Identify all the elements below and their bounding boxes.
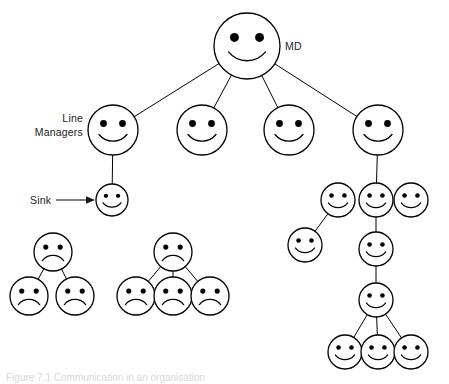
right-eye-lm2 [208,120,215,127]
edge-r-a1-to-r-b1 [315,214,328,232]
edge-r-c1-to-r-d3 [385,314,401,338]
face-node-sadB-c1[interactable] [117,277,155,315]
edge-sadA-top-to-sadA-c1 [38,269,44,280]
face-outline-sadA-c1 [10,277,48,315]
left-eye-sink [104,194,108,198]
left-eye-r-b2 [367,242,372,247]
figure-root: MD Line Managers Sink Figure 7.1 Communi… [0,0,449,384]
right-eye-sadA-c2 [80,288,85,293]
right-eye-r-a2 [380,193,385,198]
right-eye-sadA-top [58,244,63,249]
face-node-lm4[interactable] [353,105,403,155]
right-eye-lm4 [384,120,391,127]
edge-sadB-top-to-sadB-c1 [148,267,161,282]
right-eye-r-a1 [342,193,347,198]
edge-sadA-top-to-sadA-c2 [62,269,67,279]
face-node-r-d2[interactable] [361,335,395,369]
face-outline-lm2 [177,105,227,155]
left-eye-md [230,33,239,42]
edge-r-c1-to-r-d2 [377,317,378,335]
left-eye-sadB-c1 [126,288,131,293]
right-eye-r-d1 [349,345,354,350]
right-eye-sadA-c1 [34,288,39,293]
face-node-sadA-c1[interactable] [10,277,48,315]
face-node-r-b1[interactable] [288,228,322,262]
face-outline-sadB-c3 [191,277,229,315]
left-eye-r-d2 [369,345,374,350]
right-eye-r-d2 [382,345,387,350]
face-outline-r-d2 [361,335,395,369]
face-node-sadA-top[interactable] [34,233,72,271]
left-eye-r-b1 [296,238,301,243]
left-eye-lm1 [100,120,107,127]
edge-md-to-lm2 [214,75,232,108]
face-node-lm2[interactable] [177,105,227,155]
face-outline-sadA-top [34,233,72,271]
right-eye-sadB-top [178,244,183,249]
left-eye-r-a3 [402,193,407,198]
face-node-r-a1[interactable] [321,183,355,217]
face-outline-r-a3 [394,183,428,217]
face-node-r-c1[interactable] [359,283,393,317]
organisation-chart-diagram: MD Line Managers Sink [0,0,449,384]
nodes-layer [10,13,428,369]
face-outline-sadB-c1 [117,277,155,315]
face-outline-r-d3 [394,335,428,369]
face-node-r-d1[interactable] [328,335,362,369]
right-eye-sadB-c1 [141,288,146,293]
face-node-sadB-c3[interactable] [191,277,229,315]
left-eye-r-c1 [367,293,372,298]
md-label: MD [285,40,302,52]
face-outline-sadB-top [154,233,192,271]
right-eye-r-a3 [415,193,420,198]
right-eye-r-b2 [380,242,385,247]
face-node-lm3[interactable] [264,105,314,155]
left-eye-sadB-c2 [163,288,168,293]
face-outline-r-c1 [359,283,393,317]
edge-lm4-to-r-a2 [376,155,377,183]
face-outline-r-b1 [288,228,322,262]
face-outline-r-b2 [359,232,393,266]
right-eye-sadB-c2 [178,288,183,293]
face-outline-r-a2 [359,183,393,217]
right-eye-md [255,33,264,42]
left-eye-sadB-top [163,244,168,249]
left-eye-r-d3 [402,345,407,350]
right-eye-r-b1 [309,238,314,243]
edge-sadB-top-to-sadB-c3 [185,267,198,282]
face-node-sadB-top[interactable] [154,233,192,271]
right-eye-sink [116,194,120,198]
sink-arrow-annotation [56,196,95,204]
face-node-sadB-c2[interactable] [154,277,192,315]
face-outline-md [214,13,280,79]
left-eye-r-a1 [329,193,334,198]
left-eye-sadB-c3 [200,288,205,293]
face-node-r-b2[interactable] [359,232,393,266]
figure-caption: Figure 7.1 Communication in an organisat… [6,372,236,384]
face-node-lm1[interactable] [88,105,138,155]
right-eye-sadB-c3 [215,288,220,293]
face-node-md[interactable] [214,13,280,79]
face-node-sadA-c2[interactable] [56,277,94,315]
face-node-r-a3[interactable] [394,183,428,217]
face-node-sink[interactable] [96,184,128,216]
left-eye-r-d1 [336,345,341,350]
face-node-r-d3[interactable] [394,335,428,369]
left-eye-sadA-c2 [65,288,70,293]
edge-md-to-lm3 [262,76,278,108]
left-eye-lm3 [276,120,283,127]
edge-r-c1-to-r-d1 [354,315,368,338]
right-eye-lm1 [119,120,126,127]
face-outline-lm1 [88,105,138,155]
left-eye-lm4 [365,120,372,127]
sink-label: Sink [30,194,52,206]
left-eye-sadA-top [43,244,48,249]
face-outline-lm3 [264,105,314,155]
face-outline-r-d1 [328,335,362,369]
right-eye-r-c1 [380,293,385,298]
face-outline-lm4 [353,105,403,155]
line-managers-label-line1: Line [62,112,83,124]
face-outline-r-a1 [321,183,355,217]
face-node-r-a2[interactable] [359,183,393,217]
left-eye-r-a2 [367,193,372,198]
